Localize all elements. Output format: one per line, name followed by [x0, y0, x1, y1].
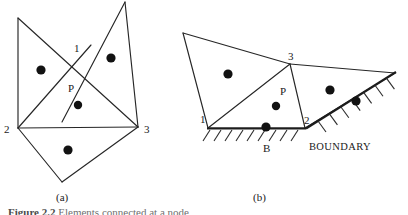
hatch-tick [341, 107, 349, 118]
figure-caption-strip: Figure 2.2 Elements connected at a node [0, 206, 408, 215]
hatch-tick [329, 114, 337, 125]
hatch-tick [269, 130, 276, 141]
element-node-dot [63, 145, 72, 154]
vertex-label-2: 2 [4, 123, 10, 135]
element-node-dot [74, 101, 82, 109]
hatch-tick [375, 85, 383, 96]
element-node-dot [351, 96, 360, 105]
point-label-P: P [68, 82, 74, 94]
mesh-edge [125, 2, 138, 127]
element-node-dot [261, 122, 270, 131]
hatch-tick [386, 78, 394, 89]
figure-caption: Figure 2.2 Elements connected at a node [8, 206, 189, 215]
boundary-text-label: BOUNDARY [309, 141, 371, 152]
mesh-edge [62, 127, 138, 182]
mesh-edge [290, 64, 305, 128]
vertex-label-1: 1 [74, 42, 80, 54]
hatch-tick [214, 130, 221, 141]
panel-label-b: (b) [253, 191, 266, 204]
hatch-tick [236, 130, 243, 141]
element-node-dot [106, 53, 115, 62]
element-node-dot [223, 69, 232, 78]
hatch-tick [364, 92, 372, 103]
hatch-tick [280, 130, 287, 141]
mesh-edge [18, 128, 62, 182]
point-label-B: B [263, 142, 270, 154]
point-label-P: P [280, 85, 286, 97]
panel-label-a: (a) [56, 191, 69, 204]
vertex-label-3: 3 [144, 123, 150, 135]
element-node-dot [36, 65, 45, 74]
vertex-label-1: 1 [200, 113, 206, 125]
boundary-line [306, 72, 396, 129]
element-node-dot [325, 85, 334, 94]
vertex-label-2: 2 [304, 114, 310, 126]
hatch-tick [258, 130, 265, 141]
panel-b: 312PBBOUNDARY(b) [183, 33, 396, 204]
mesh-edge [62, 2, 125, 122]
hatch-tick [318, 121, 326, 132]
mesh-edge [290, 64, 395, 73]
hatch-tick [203, 130, 210, 141]
vertex-label-3: 3 [288, 50, 294, 62]
element-node-dot [272, 102, 280, 110]
mesh-edge [18, 127, 138, 128]
hatch-tick [247, 130, 254, 141]
mesh-edge [183, 33, 290, 64]
figure-caption-text: Elements connected at a node [58, 206, 189, 215]
mesh-edge [208, 64, 290, 128]
figure-canvas: 123P(a) 312PBBOUNDARY(b) [0, 0, 408, 215]
panel-a: 123P(a) [4, 2, 150, 204]
hatch-tick [225, 130, 232, 141]
figure-caption-prefix: Figure 2.2 [8, 206, 55, 215]
mesh-edge [18, 18, 138, 127]
hatch-tick [291, 130, 298, 141]
figure-container: 123P(a) 312PBBOUNDARY(b) Figure 2.2 Elem… [0, 0, 408, 215]
